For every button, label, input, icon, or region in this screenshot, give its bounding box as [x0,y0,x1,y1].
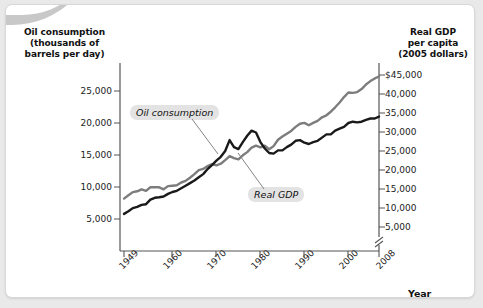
series-line-real-gdp [124,77,379,199]
callout-leader-oil [192,119,218,154]
x-axis-ticks [124,251,379,257]
left-axis-ticks [114,91,120,219]
plot-area [6,5,474,297]
chart-card: Oil consumption (thousands of barrels pe… [5,4,475,298]
series-line-oil-consumption [124,117,379,214]
callout-leader-gdp [238,153,264,189]
right-axis-ticks [379,75,385,227]
